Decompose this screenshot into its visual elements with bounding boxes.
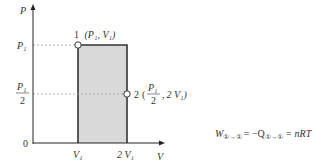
y-tick-p1: P₁: [16, 40, 27, 51]
point-1-marker: [75, 42, 81, 48]
pv-diagram: P V 0 P₁ P₁ 2 V₁ 2 V₁ 1 (P₁, V₁) 2 ( P₁ …: [0, 0, 315, 165]
point-2-label: 2: [134, 89, 139, 100]
origin-label: 0: [23, 138, 28, 149]
x-axis-arrow-icon: [159, 141, 165, 146]
point-2-marker: [124, 91, 130, 97]
point-2-v-coord: ,2 V₁): [162, 89, 188, 101]
x-axis-label: V: [157, 151, 165, 162]
point-1-label: 1 (P₁, V₁): [74, 29, 116, 41]
x-tick-v1: V₁: [73, 149, 83, 160]
y-tick-p1-half-denominator: 2: [20, 95, 25, 106]
x-tick-2v1: 2 V₁: [117, 149, 134, 160]
y-tick-p1-half-numerator: P₁: [16, 81, 27, 92]
point-2-open-paren: (: [142, 89, 146, 101]
work-heat-formula: W①→①= −Q①→①= nRT: [215, 128, 313, 140]
y-axis-label: P: [19, 5, 26, 16]
point-2-p-denominator: 2: [151, 95, 156, 106]
y-axis-arrow-icon: [31, 4, 36, 10]
point-2-p-numerator: P₁: [147, 82, 158, 93]
